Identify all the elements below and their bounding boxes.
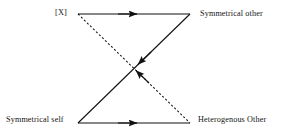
edge-solid-diagonal-arrowhead [138,52,151,65]
edge-dashed-diagonal-arrowhead [136,71,149,84]
diagram-figure: [X] Symmetrical other Symmetrical self H… [0,0,291,137]
node-label-top-right: Symmetrical other [200,10,263,18]
node-label-top-left: [X] [55,9,67,17]
node-label-bottom-left: Symmetrical self [6,116,64,124]
node-label-bottom-right: Heterogenous Other [198,116,266,124]
